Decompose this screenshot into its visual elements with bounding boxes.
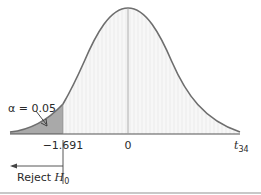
curve-body-fill — [63, 8, 240, 134]
t-distribution-diagram: α = 0.05 −1.691 0 t34 Reject H0 — [0, 0, 261, 195]
reject-arrowhead-icon — [10, 164, 17, 169]
reject-h0-label: Reject H0 — [17, 171, 69, 186]
center-label: 0 — [125, 139, 132, 152]
alpha-label: α = 0.05 — [8, 102, 56, 115]
distribution-label: t34 — [234, 139, 249, 154]
